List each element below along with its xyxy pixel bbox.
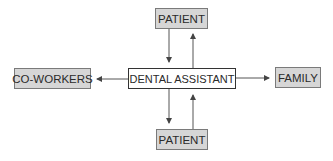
node-family: FAMILY (275, 67, 321, 88)
node-dental-assistant: DENTAL ASSISTANT (128, 68, 236, 89)
node-patient-bottom: PATIENT (156, 129, 208, 150)
node-patient-top: PATIENT (155, 8, 208, 29)
node-coworkers: CO-WORKERS (14, 68, 91, 89)
